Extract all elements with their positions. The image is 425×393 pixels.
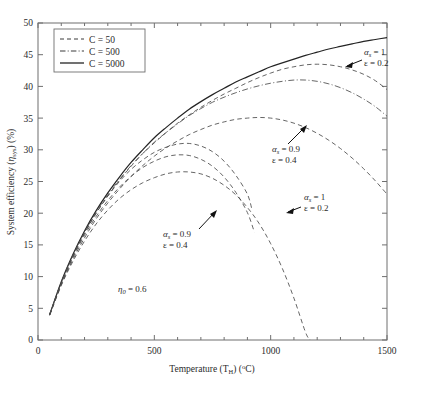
y-tick-label: 40 [24,82,34,92]
figure-container: 05101520253035404550 050010001500 System… [0,0,425,393]
y-tick-label: 30 [24,145,34,155]
annotation-1-eq: = 1 [371,47,385,57]
data-curve [50,64,387,314]
annotation-eta-value: = 0.6 [126,284,147,294]
data-curve [50,38,387,315]
y-tick-label: 20 [24,209,34,219]
x-axis-label-tail: ) ( [233,364,242,375]
annotation-2-line2: ε = 0.4 [272,155,297,165]
annotation-1-line2: ε = 0.2 [364,58,389,68]
data-curve [50,117,387,315]
y-axis-label-tail: ) (%) [6,129,17,149]
legend-label-c500: C = 500 [89,47,120,57]
annotation-alpha09-eps04-lower: αs = 0.9 ε = 0.4 [163,210,217,250]
annotation-4-eq: = 0.9 [170,229,191,239]
annotation-eta-optical: η0 = 0.6 [118,284,147,295]
x-axis-label: Temperature (TH) (oC) [169,363,254,375]
annotation-1-line1: αs = 1 [364,47,385,58]
y-axis-label-head: System efficiency ( [6,162,17,236]
annotation-2-arrowhead [300,125,307,133]
x-axis-label-head: Temperature (T [169,364,228,375]
annotation-3-eq: = 1 [311,192,325,202]
legend-label-c5000: C = 5000 [89,59,125,69]
annotation-4-line1: αs = 0.9 [163,229,192,240]
x-axis-label-unit: C) [245,364,255,375]
annotation-alpha09-eps04-middle: αs = 0.9 ε = 0.4 [272,125,307,165]
y-tick-label: 0 [28,335,33,345]
data-curve [50,143,252,314]
y-tick-label: 25 [24,177,34,187]
annotation-1-arrowhead [345,62,353,68]
legend[interactable]: C = 50 C = 500 C = 5000 [54,29,145,72]
annotation-4-line2: ε = 0.4 [163,240,188,250]
annotation-2-eq: = 0.9 [279,144,300,154]
data-curve [50,80,387,315]
annotation-3-line2: ε = 0.2 [304,203,329,213]
x-tick-label: 500 [147,346,162,356]
annotation-alpha1-eps02-upper: αs = 1 ε = 0.2 [345,47,389,68]
data-curve [50,172,311,340]
data-curves [50,38,387,340]
y-tick-label: 35 [24,114,34,124]
x-axis-ticks: 050010001500 [36,23,397,356]
legend-label-c50: C = 50 [89,35,115,45]
y-tick-label: 50 [24,18,34,28]
y-tick-label: 10 [24,272,34,282]
y-axis-label: System efficiency (ηsys) (%) [6,129,17,236]
y-tick-label: 45 [24,50,34,60]
x-tick-label: 1000 [261,346,280,356]
y-tick-label: 15 [24,240,34,250]
annotation-3-line1: αs = 1 [304,192,325,203]
x-tick-label: 0 [36,346,41,356]
x-tick-label: 1500 [378,346,397,356]
annotation-2-line1: αs = 0.9 [272,144,301,155]
chart-canvas: 05101520253035404550 050010001500 System… [0,0,425,393]
annotation-3-arrowhead [286,208,294,214]
data-curve [50,155,255,315]
annotation-alpha1-eps02-lower: αs = 1 ε = 0.2 [286,192,329,214]
y-tick-label: 5 [28,304,33,314]
